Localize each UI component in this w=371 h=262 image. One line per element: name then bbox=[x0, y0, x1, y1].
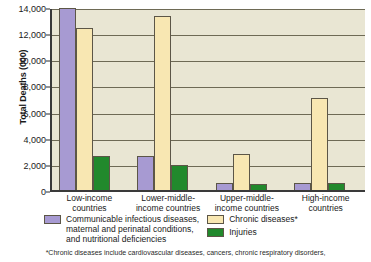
y-axis-tick-labels: 14,00012,00010,0008,0006,0004,0002,0000 bbox=[6, 9, 50, 192]
bar-groups bbox=[52, 9, 365, 190]
bar-group bbox=[294, 9, 358, 190]
y-axis-tick-label: 6,000 bbox=[23, 109, 46, 118]
plot-area bbox=[50, 9, 365, 192]
bar[interactable] bbox=[233, 154, 250, 190]
bar[interactable] bbox=[311, 98, 328, 190]
bar-group bbox=[216, 9, 280, 190]
y-axis-tick-label: 8,000 bbox=[23, 83, 46, 92]
bar[interactable] bbox=[216, 183, 233, 190]
legend-label-chronic: Chronic diseases* bbox=[229, 214, 298, 224]
bar-chart-figure: Total Deaths (000) 14,00012,00010,0008,0… bbox=[0, 0, 371, 262]
y-axis-tick-label: 2,000 bbox=[23, 161, 46, 170]
bar[interactable] bbox=[76, 28, 93, 190]
legend-label-communicable: Communicable infectious diseases, matern… bbox=[66, 214, 199, 244]
legend-item-injuries[interactable]: Injuries bbox=[207, 227, 298, 237]
bar-group bbox=[59, 9, 123, 190]
bar[interactable] bbox=[137, 156, 154, 190]
legend-swatch-injuries-icon bbox=[207, 228, 224, 237]
bar[interactable] bbox=[250, 184, 267, 190]
y-axis-tick-label: 10,000 bbox=[18, 57, 46, 66]
legend-item-communicable[interactable]: Communicable infectious diseases, matern… bbox=[44, 214, 199, 244]
x-axis-tick-label: High-incomecountries bbox=[286, 194, 365, 213]
bar[interactable] bbox=[171, 165, 188, 190]
bar[interactable] bbox=[154, 16, 171, 190]
x-axis-tick-label: Upper-middle-income countries bbox=[208, 194, 287, 213]
bar-group bbox=[137, 9, 201, 190]
legend-column-left: Communicable infectious diseases, matern… bbox=[44, 214, 199, 247]
legend-column-right: Chronic diseases* Injuries bbox=[207, 214, 298, 240]
bar[interactable] bbox=[59, 8, 76, 190]
bar[interactable] bbox=[294, 183, 311, 190]
y-axis-tick-label: 12,000 bbox=[18, 31, 46, 40]
chart-footnote: *Chronic diseases include cardiovascular… bbox=[0, 249, 371, 257]
x-axis-tick-label: Lower-middle-income countries bbox=[129, 194, 208, 213]
x-axis-tick-label: Low-incomecountries bbox=[50, 194, 129, 213]
legend-swatch-communicable-icon bbox=[44, 215, 61, 224]
legend-item-chronic[interactable]: Chronic diseases* bbox=[207, 214, 298, 224]
bar[interactable] bbox=[328, 183, 345, 190]
y-axis-tick-label: 4,000 bbox=[23, 135, 46, 144]
bar[interactable] bbox=[93, 156, 110, 190]
legend-swatch-chronic-icon bbox=[207, 215, 224, 224]
legend-label-injuries: Injuries bbox=[229, 227, 256, 237]
y-axis-tick-label: 14,000 bbox=[18, 5, 46, 14]
x-axis-tick-labels: Low-incomecountriesLower-middle-income c… bbox=[50, 194, 365, 213]
chart-legend: Communicable infectious diseases, matern… bbox=[44, 214, 366, 247]
